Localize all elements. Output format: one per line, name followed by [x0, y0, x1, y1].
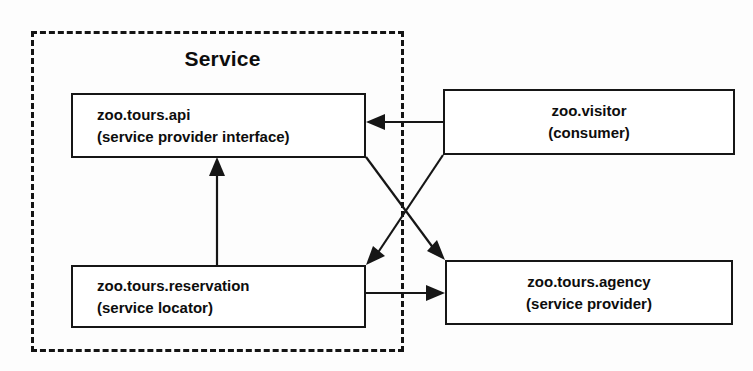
node-api-role: (service provider interface) — [97, 126, 290, 148]
node-visitor-role: (consumer) — [548, 122, 630, 144]
node-zoo-tours-api[interactable]: zoo.tours.api (service provider interfac… — [71, 93, 366, 158]
diagram-canvas: Service zoo.tours.api (service provider … — [0, 0, 753, 371]
node-api-name: zoo.tours.api — [97, 104, 190, 126]
node-reservation-name: zoo.tours.reservation — [97, 275, 250, 297]
node-visitor-name: zoo.visitor — [551, 100, 626, 122]
node-zoo-visitor[interactable]: zoo.visitor (consumer) — [443, 89, 735, 155]
node-agency-name: zoo.tours.agency — [527, 271, 650, 293]
service-boundary-label: Service — [150, 47, 295, 71]
node-zoo-tours-agency[interactable]: zoo.tours.agency (service provider) — [445, 260, 733, 325]
node-reservation-role: (service locator) — [97, 297, 213, 319]
node-agency-role: (service provider) — [526, 293, 652, 315]
node-zoo-tours-reservation[interactable]: zoo.tours.reservation (service locator) — [71, 265, 366, 328]
